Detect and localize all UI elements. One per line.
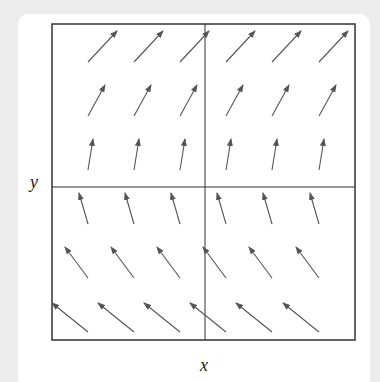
direction-arrow-icon bbox=[319, 139, 324, 170]
arrow-group bbox=[52, 31, 348, 332]
direction-arrow-icon bbox=[157, 247, 180, 278]
direction-arrow-icon bbox=[134, 31, 163, 62]
direction-arrow-icon bbox=[226, 85, 243, 116]
direction-arrow-icon bbox=[52, 303, 88, 332]
direction-arrow-icon bbox=[272, 139, 277, 170]
direction-arrow-icon bbox=[226, 31, 255, 62]
direction-arrow-icon bbox=[79, 193, 88, 224]
y-axis-label: y bbox=[30, 172, 38, 193]
direction-arrow-icon bbox=[65, 247, 88, 278]
direction-arrow-icon bbox=[180, 85, 197, 116]
vector-field-plot bbox=[0, 0, 380, 382]
direction-arrow-icon bbox=[249, 247, 272, 278]
direction-arrow-icon bbox=[125, 193, 134, 224]
direction-arrow-icon bbox=[203, 247, 226, 278]
direction-arrow-icon bbox=[272, 85, 289, 116]
direction-arrow-icon bbox=[180, 139, 185, 170]
plot-frame bbox=[52, 24, 355, 340]
direction-arrow-icon bbox=[88, 31, 117, 62]
direction-arrow-icon bbox=[88, 139, 93, 170]
direction-arrow-icon bbox=[319, 31, 348, 62]
x-axis-label: x bbox=[200, 355, 208, 376]
direction-arrow-icon bbox=[226, 139, 231, 170]
direction-arrow-icon bbox=[319, 85, 336, 116]
direction-arrow-icon bbox=[283, 303, 319, 332]
direction-arrow-icon bbox=[272, 31, 301, 62]
direction-arrow-icon bbox=[134, 139, 139, 170]
direction-arrow-icon bbox=[296, 247, 319, 278]
direction-arrow-icon bbox=[134, 85, 151, 116]
direction-arrow-icon bbox=[144, 303, 180, 332]
direction-arrow-icon bbox=[263, 193, 272, 224]
direction-arrow-icon bbox=[111, 247, 134, 278]
direction-arrow-icon bbox=[310, 193, 319, 224]
direction-arrow-icon bbox=[171, 193, 180, 224]
direction-arrow-icon bbox=[88, 85, 105, 116]
direction-arrow-icon bbox=[217, 193, 226, 224]
direction-arrow-icon bbox=[98, 303, 134, 332]
direction-arrow-icon bbox=[190, 303, 226, 332]
direction-arrow-icon bbox=[236, 303, 272, 332]
